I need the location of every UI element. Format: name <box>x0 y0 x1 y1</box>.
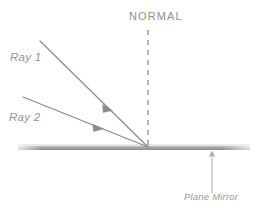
diagram-canvas <box>0 0 263 215</box>
ray-1-label: Ray 1 <box>10 52 42 64</box>
normal-label: NORMAL <box>129 11 183 22</box>
ray-2-label: Ray 2 <box>9 112 41 124</box>
plane-mirror-label: Plane Mirror <box>184 192 238 202</box>
plane-mirror-bar <box>18 145 250 151</box>
ray-2-line <box>23 97 148 147</box>
reflection-diagram: Ray 1 Ray 2 NORMAL Plane Mirror <box>0 0 263 215</box>
ray-2-arrowhead <box>93 124 104 131</box>
plane-mirror-pointer-arrow <box>209 151 216 193</box>
